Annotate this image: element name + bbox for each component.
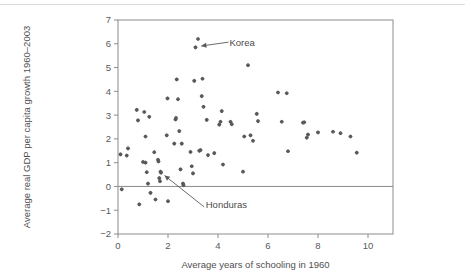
data-point <box>246 63 250 67</box>
y-tick-label: −2 <box>100 228 111 239</box>
data-point <box>177 129 181 133</box>
data-point <box>190 164 194 168</box>
y-tick-label: 4 <box>106 86 111 97</box>
data-point <box>165 133 169 137</box>
data-point <box>191 171 195 175</box>
y-tick-label: 7 <box>106 14 111 25</box>
data-point <box>286 149 290 153</box>
y-tick-label: −1 <box>100 205 111 216</box>
plot-frame <box>118 20 393 234</box>
annotations: KoreaHonduras <box>165 37 256 210</box>
data-point <box>193 45 197 49</box>
data-point <box>165 96 169 100</box>
x-tick-label: 2 <box>165 240 170 251</box>
data-point <box>221 162 225 166</box>
data-point <box>280 120 284 124</box>
data-point <box>242 134 246 138</box>
data-point <box>142 110 146 114</box>
plot-frame-border <box>118 20 393 234</box>
annotation-arrow-head <box>201 43 207 48</box>
annotation-leader-line <box>165 175 205 206</box>
data-point <box>172 142 176 146</box>
data-point <box>255 112 259 116</box>
data-point <box>338 131 342 135</box>
data-point <box>355 151 359 155</box>
x-tick-label: 10 <box>363 240 374 251</box>
y-tick-label: 3 <box>106 110 111 121</box>
data-point <box>166 199 170 203</box>
data-point <box>200 77 204 81</box>
data-point <box>201 105 205 109</box>
data-point <box>205 118 209 122</box>
y-axis-title: Average real GDP per capita growth 1960–… <box>21 26 32 228</box>
data-point <box>248 133 252 137</box>
y-tick-label: 5 <box>106 62 111 73</box>
data-point <box>316 130 320 134</box>
data-point <box>137 202 141 206</box>
data-point <box>276 90 280 94</box>
y-tick-label: 1 <box>106 157 111 168</box>
data-point <box>148 191 152 195</box>
y-tick-label: 2 <box>106 133 111 144</box>
x-tick-label: 8 <box>315 240 320 251</box>
y-tick-label: 6 <box>106 38 111 49</box>
data-points <box>118 37 358 206</box>
scatter-plot: 0246810 −2−101234567 KoreaHonduras Avera… <box>0 0 465 278</box>
figure-container: 0246810 −2−101234567 KoreaHonduras Avera… <box>0 0 465 278</box>
data-point <box>251 139 255 143</box>
annotation-label: Korea <box>230 37 256 48</box>
data-point <box>120 187 124 191</box>
data-point <box>220 109 224 113</box>
data-point <box>196 37 200 41</box>
data-point <box>143 134 147 138</box>
data-point <box>135 108 139 112</box>
data-point <box>146 181 150 185</box>
data-point <box>206 153 210 157</box>
data-point <box>152 150 156 154</box>
data-point <box>192 79 196 83</box>
data-point <box>153 197 157 201</box>
data-point <box>147 115 151 119</box>
data-point <box>188 150 192 154</box>
data-point <box>331 130 335 134</box>
data-point <box>241 170 245 174</box>
annotation-label: Honduras <box>206 199 247 210</box>
x-axis-title: Average years of schooling in 1960 <box>181 259 329 270</box>
data-point <box>178 167 182 171</box>
data-point <box>348 134 352 138</box>
x-tick-label: 0 <box>115 240 120 251</box>
x-axis-ticks <box>118 234 368 238</box>
data-point <box>125 153 129 157</box>
data-point <box>126 146 130 150</box>
data-point <box>118 152 122 156</box>
data-point <box>180 142 184 146</box>
data-point <box>145 170 149 174</box>
x-tick-label: 4 <box>215 240 220 251</box>
data-point <box>285 91 289 95</box>
data-point <box>212 151 216 155</box>
x-tick-label: 6 <box>265 240 270 251</box>
data-point <box>256 119 260 123</box>
annotation-arrow-head <box>165 175 171 180</box>
data-point <box>176 97 180 101</box>
data-point <box>175 77 179 81</box>
y-axis-ticks <box>114 20 118 234</box>
y-tick-label: 0 <box>106 181 111 192</box>
y-axis-tick-labels: −2−101234567 <box>100 14 111 239</box>
data-point <box>136 118 140 122</box>
data-point <box>200 94 204 98</box>
x-axis-tick-labels: 0246810 <box>115 240 373 251</box>
